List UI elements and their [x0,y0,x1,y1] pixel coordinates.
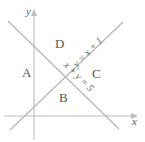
region-label-d: D [55,37,64,50]
region-label-b: B [59,91,68,104]
x-axis-label: x [132,116,137,127]
up-arrow-icon [31,9,37,16]
region-label-c: C [92,67,101,80]
region-label-a: A [22,66,31,79]
y-axis-label: y [26,6,31,17]
coordinate-plane-figure: y x y = x + 1 x + y = 5 A B C D [0,0,145,142]
y-axis [31,9,37,140]
